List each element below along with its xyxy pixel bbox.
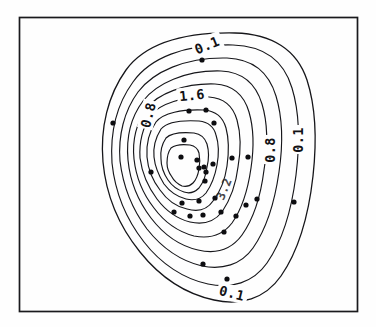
data-point — [229, 155, 234, 160]
contour-line-level-1 — [102, 33, 315, 302]
contour-label-upper-center: 1.6 — [178, 86, 205, 105]
data-point — [221, 229, 226, 234]
data-point — [203, 107, 208, 112]
data-point — [200, 212, 205, 217]
data-point — [171, 209, 176, 214]
data-point — [218, 209, 223, 214]
data-point — [243, 202, 248, 207]
data-point — [181, 137, 186, 142]
data-point — [194, 157, 199, 162]
data-point — [201, 164, 206, 169]
contour-label-right-mid: 0.8 — [262, 137, 278, 163]
data-point — [179, 200, 184, 205]
data-point — [200, 261, 205, 266]
data-point — [110, 120, 115, 125]
contour-label-right-outer: 0.1 — [290, 127, 306, 153]
contour-plot-canvas: 0.1 0.8 1.6 0.8 0.1 0.1 3.2 — [0, 0, 376, 327]
data-point — [203, 169, 208, 174]
data-point — [196, 165, 201, 170]
data-point — [187, 213, 192, 218]
data-point — [186, 108, 191, 113]
data-point — [199, 57, 204, 62]
contour-label-center-inner: 3.2 — [213, 176, 235, 202]
data-point — [196, 198, 201, 203]
contour-line-group — [102, 33, 315, 302]
data-point — [202, 178, 207, 183]
data-point — [254, 196, 259, 201]
data-point — [210, 161, 215, 166]
data-point — [291, 199, 296, 204]
data-point — [245, 154, 250, 159]
data-point — [233, 213, 238, 218]
contour-line-level-10 — [167, 145, 200, 187]
data-point — [148, 169, 153, 174]
data-point — [211, 120, 216, 125]
contour-plot-figure: 0.1 0.8 1.6 0.8 0.1 0.1 3.2 — [0, 0, 376, 327]
data-point — [224, 276, 229, 281]
data-point — [178, 154, 183, 159]
contour-label-bottom-outer: 0.1 — [218, 282, 247, 304]
